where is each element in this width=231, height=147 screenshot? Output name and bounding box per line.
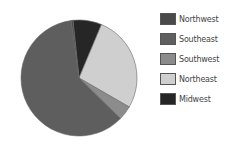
legend-item-southwest: Southwest [160,49,219,69]
legend-label: Southeast [179,35,218,44]
legend-swatch [160,33,176,45]
legend-label: Northwest [179,15,218,24]
legend-swatch [160,93,176,105]
legend-swatch [160,53,176,65]
legend-item-northwest: Northwest [160,9,219,29]
legend-item-northeast: Northeast [160,69,219,89]
legend-item-southeast: Southeast [160,29,219,49]
legend-swatch [160,13,176,25]
legend: Northwest Southeast Southwest Northeast … [160,9,219,109]
pie-chart [0,0,160,147]
legend-label: Southwest [179,55,219,64]
legend-swatch [160,73,176,85]
legend-label: Northeast [179,75,217,84]
legend-label: Midwest [179,95,211,104]
legend-item-midwest: Midwest [160,89,219,109]
